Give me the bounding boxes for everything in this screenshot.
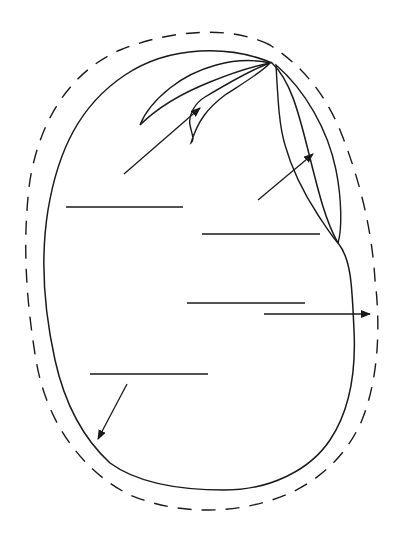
- seed-coat-dashed-outline: [26, 32, 378, 510]
- seed-diagram-canvas: [0, 0, 397, 542]
- seed-inner-outline: [44, 51, 355, 490]
- seed-diagram: [0, 0, 397, 542]
- arrow-to-inner-edge: [98, 384, 127, 439]
- arrow-to-plumule: [124, 108, 200, 174]
